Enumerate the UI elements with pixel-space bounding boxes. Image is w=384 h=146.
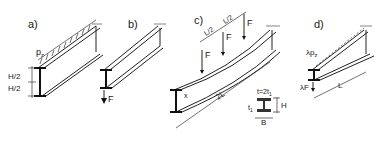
panel-c-force-3-label: F [247,18,253,28]
panel-a-dim-bottom: H/2 [8,84,21,93]
panel-a: a) pz H/2 H/2 [8,18,103,98]
section-bottom-flange [257,109,271,112]
panel-c-spacing-2: L/2 [222,14,234,25]
section-web-label: t=2t1 [257,88,272,97]
panel-c-cross-section: H B t=2t1 t1 [248,88,287,127]
panel-c-beam-top [174,30,270,90]
panel-c-force-1-label: F [205,50,211,60]
section-top-flange [257,98,271,101]
panel-a-beam-top [38,26,96,68]
panel-c-force-1-arrowhead [200,70,204,74]
panel-d-beam-top-edge [318,32,368,70]
panel-d-force-label: λF [300,83,309,92]
panel-a-load-label: pz [36,47,44,58]
panel-b-beam-top-edge [110,28,162,70]
panel-a-dim-top: H/2 [8,72,21,81]
panel-c-force-2-arrowhead [221,52,225,56]
panel-c-force-3-arrowhead [242,36,246,40]
section-width-label: B [261,118,266,127]
panel-d-load-label: λpz [306,48,317,58]
panel-d-force-arrowhead [311,88,315,92]
panel-c-beam-bottom [176,50,276,112]
panel-c-label: c) [194,14,203,26]
panel-c-beam-bottom-edge [182,52,280,112]
panel-b-beam-bottom-edge [112,48,163,88]
panel-a-beam-bottom-edge [46,55,103,96]
panel-b-label: b) [128,18,138,30]
panel-a-beam-bottom [42,54,100,96]
section-web [263,101,265,109]
panel-d-span-label: L [338,81,343,90]
panel-b-force-arrowhead [101,98,107,104]
panel-d-beam-bottom-edge [320,56,374,80]
panel-d: d) λpz λF L [300,18,374,98]
panel-d-label: d) [314,18,324,30]
section-height-label: H [281,101,287,110]
panel-a-beam-top-edge [44,28,100,68]
section-flange-label: t1 [248,104,253,113]
panel-b-beam-top [104,26,158,70]
panel-b-force-label: F [108,94,114,104]
panel-c-x-label: x [184,92,188,99]
panel-a-distributed-load [38,20,96,64]
panel-c-spacing-1: L/2 [203,26,215,37]
beam-load-diagram: a) pz H/2 H/2 [0,0,384,146]
panel-b: b) F [100,18,166,104]
panel-c: c) L/2 L/2 F F F x 2L [170,12,287,128]
panel-a-label: a) [28,18,38,30]
panel-c-force-2-label: F [226,32,232,42]
